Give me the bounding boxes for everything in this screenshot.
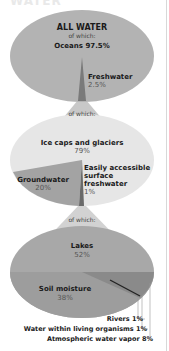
pie1-of-which: of which: <box>68 33 95 39</box>
pie3-of-which: of which: <box>68 217 95 223</box>
pie3-lakes-value: 52% <box>74 252 90 259</box>
pie2-of-which: of which: <box>68 111 95 117</box>
pie2-surface-value: 1% <box>84 189 95 196</box>
pie2-ice-label: Ice caps and glaciers <box>41 140 124 147</box>
pie2-ice-value: 79% <box>74 148 90 155</box>
pie2-surface-label-3: freshwater <box>84 181 127 188</box>
pie2-groundwater-value: 20% <box>35 185 51 192</box>
pie3-rivers-label: Rivers 1% <box>107 316 143 323</box>
pie2-surface-label-1: Easily accessible <box>84 165 150 172</box>
pie3-soil-value: 38% <box>57 295 73 302</box>
pie2-surface-label-2: surface <box>84 173 113 180</box>
pie2-groundwater-label: Groundwater <box>17 177 69 184</box>
pie1-freshwater-label: Freshwater <box>88 74 132 81</box>
pie3-living-label: Water within living organisms 1% <box>24 326 147 333</box>
pie1-oceans-label: Oceans 97.5% <box>54 43 109 50</box>
pie1-title: ALL WATER <box>57 24 107 32</box>
pie3-vapor-label: Atmospheric water vapor 8% <box>47 336 153 343</box>
pie3-lakes-label: Lakes <box>71 243 94 250</box>
pie3-soil-label: Soil moisture <box>39 286 91 293</box>
pie1-freshwater-value: 2.5% <box>88 82 106 89</box>
